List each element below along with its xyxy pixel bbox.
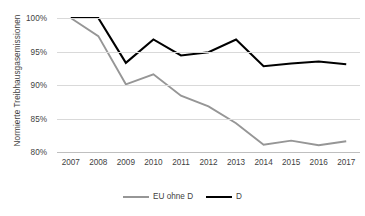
y-axis-tick-label: 90% [7,81,47,90]
gridline-85 [57,119,360,120]
gridline-100 [57,18,360,19]
x-axis-tick-labels: 2007200820092010201120122013201420152016… [57,158,360,172]
x-axis-tick-label: 2017 [332,158,360,172]
line-chart: Normierte Treibhausgasemissionen 100%95%… [0,0,365,216]
legend-label: D [236,192,242,201]
y-axis-tick-label: 100% [7,14,47,23]
x-axis-tick-label: 2011 [167,158,195,172]
x-axis-tick-label: 2016 [305,158,333,172]
series-line-eu-ohne-d [71,18,346,145]
x-axis-tick-label: 2012 [195,158,223,172]
gridline-80 [57,152,360,153]
legend-line-icon [206,196,232,198]
chart-legend: EU ohne DD [0,192,365,201]
plot-area: 100%95%90%85%80% [57,18,360,152]
gridline-95 [57,52,360,53]
y-axis-tick-label: 95% [7,47,47,56]
x-axis-tick-label: 2014 [250,158,278,172]
x-axis-tick-label: 2010 [140,158,168,172]
x-axis-tick-label: 2007 [57,158,85,172]
legend-item-d[interactable]: D [206,192,242,201]
x-axis-tick-label: 2009 [112,158,140,172]
legend-label: EU ohne D [153,192,193,201]
x-axis-tick-label: 2015 [277,158,305,172]
gridline-90 [57,85,360,86]
x-axis-tick-label: 2013 [222,158,250,172]
y-axis-tick-label: 80% [7,148,47,157]
y-axis-tick-label: 85% [7,114,47,123]
x-axis-tick-label: 2008 [85,158,113,172]
legend-item-eu-ohne-d[interactable]: EU ohne D [123,192,193,201]
legend-line-icon [123,196,149,198]
